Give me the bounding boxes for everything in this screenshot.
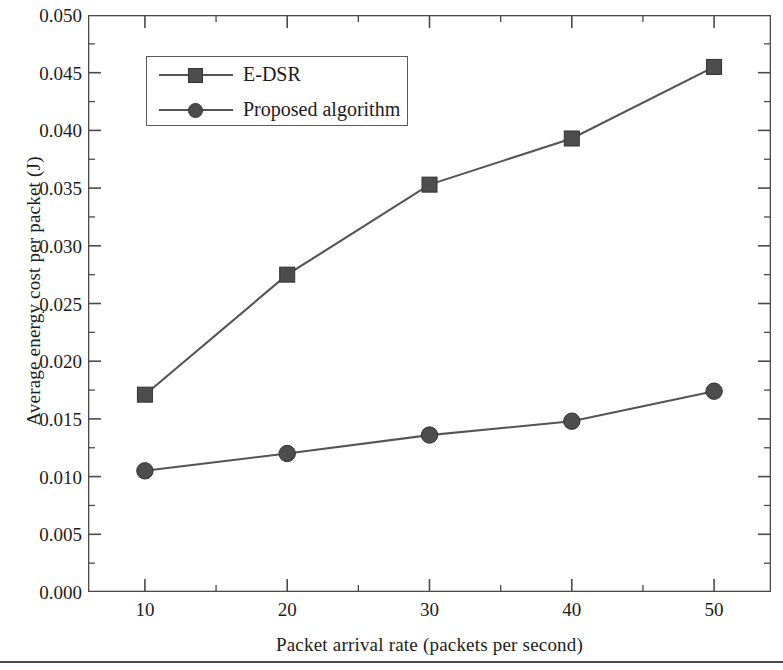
data-point-square [564,131,579,146]
figure-bottom-rule [0,661,783,663]
data-point-circle [137,463,153,479]
legend-label-e-dsr: E-DSR [243,63,301,86]
square-marker-icon [188,68,203,83]
chart-legend: E-DSR Proposed algorithm [146,56,408,126]
x-tick-label: 50 [684,600,744,619]
circle-marker-icon [188,103,203,118]
x-tick-label: 10 [115,600,175,619]
x-tick-label: 40 [542,600,602,619]
data-point-circle [564,413,580,429]
data-point-circle [706,383,722,399]
legend-item-e-dsr: E-DSR [147,57,407,92]
legend-label-proposed-algorithm: Proposed algorithm [243,98,400,121]
x-tick-label: 20 [257,600,317,619]
data-point-circle [279,445,295,461]
x-axis-title: Packet arrival rate (packets per second) [88,634,771,656]
data-point-square [422,177,437,192]
data-point-square [137,387,152,402]
legend-item-proposed-algorithm: Proposed algorithm [147,92,407,127]
legend-sample-square [159,65,233,85]
figure: Average energy cost per packet (J) 0.000… [0,0,783,670]
legend-sample-circle [159,100,233,120]
data-point-square [707,59,722,74]
data-point-circle [421,427,437,443]
data-point-square [280,267,295,282]
x-tick-label: 30 [400,600,460,619]
